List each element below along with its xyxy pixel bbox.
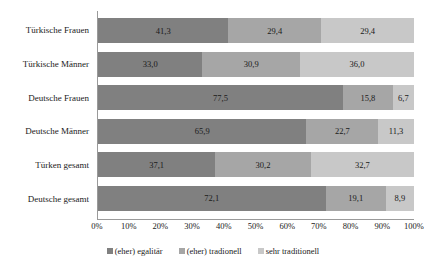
bar-row: 37,130,232,7 xyxy=(98,152,414,177)
category-axis-labels: Türkische FrauenTürkische MännerDeutsche… xyxy=(0,11,93,220)
legend-label: sehr traditionell xyxy=(266,247,320,256)
legend-item[interactable]: sehr traditionell xyxy=(258,247,320,256)
bar-value-label: 32,7 xyxy=(355,160,370,170)
x-tick-label: 60% xyxy=(279,222,295,231)
legend-label: (eher) egalitär xyxy=(115,247,163,256)
bar-segment: 30,9 xyxy=(202,52,300,77)
bar-segment: 72,1 xyxy=(98,186,326,211)
bar-value-label: 30,2 xyxy=(256,160,271,170)
bar-segment: 29,4 xyxy=(228,18,321,43)
bar-value-label: 72,1 xyxy=(204,193,219,203)
bar-value-label: 8,9 xyxy=(395,193,406,203)
bar-value-label: 36,0 xyxy=(350,59,365,69)
category-label: Deutsche Frauen xyxy=(0,86,93,111)
bar-value-label: 65,9 xyxy=(195,126,210,136)
bar-segment: 36,0 xyxy=(300,52,414,77)
bar-segment: 19,1 xyxy=(326,186,386,211)
bar-segment: 22,7 xyxy=(306,119,378,144)
bar-segment: 33,0 xyxy=(98,52,202,77)
bar-value-label: 29,4 xyxy=(267,26,282,36)
category-label: Türkische Frauen xyxy=(0,18,93,43)
bar-value-label: 6,7 xyxy=(398,93,409,103)
legend-item[interactable]: (eher) tradionell xyxy=(179,247,242,256)
bar-value-label: 22,7 xyxy=(335,126,350,136)
bar-row: 33,030,936,0 xyxy=(98,52,414,77)
category-label: Türkische Männer xyxy=(0,52,93,77)
legend-swatch-icon xyxy=(258,248,264,254)
x-tick-label: 70% xyxy=(311,222,327,231)
plot-area: 41,329,429,433,030,936,077,515,86,765,92… xyxy=(97,11,414,220)
x-tick-label: 20% xyxy=(153,222,169,231)
stacked-bar-chart: Türkische FrauenTürkische MännerDeutsche… xyxy=(0,0,426,271)
legend-label: (eher) tradionell xyxy=(187,247,242,256)
x-tick-label: 30% xyxy=(184,222,200,231)
bar-value-label: 30,9 xyxy=(244,59,259,69)
bar-value-label: 37,1 xyxy=(149,160,164,170)
bar-rows: 41,329,429,433,030,936,077,515,86,765,92… xyxy=(98,11,414,219)
bar-segment: 30,2 xyxy=(215,152,310,177)
bar-segment: 32,7 xyxy=(311,152,414,177)
bar-value-label: 41,3 xyxy=(156,26,171,36)
x-tick-label: 40% xyxy=(216,222,232,231)
x-tick-label: 0% xyxy=(91,222,102,231)
bar-row: 72,119,18,9 xyxy=(98,186,414,211)
bar-segment: 77,5 xyxy=(98,85,343,110)
bar-segment: 37,1 xyxy=(98,152,215,177)
bar-segment: 6,7 xyxy=(393,85,414,110)
x-tick-label: 10% xyxy=(121,222,137,231)
x-tick-label: 100% xyxy=(404,222,424,231)
bar-segment: 11,3 xyxy=(378,119,414,144)
x-tick-label: 80% xyxy=(343,222,359,231)
bar-value-label: 19,1 xyxy=(348,193,363,203)
bar-value-label: 77,5 xyxy=(213,93,228,103)
bar-segment: 65,9 xyxy=(98,119,306,144)
category-label: Deutsche Männer xyxy=(0,119,93,144)
bar-row: 65,922,711,3 xyxy=(98,119,414,144)
bar-segment: 8,9 xyxy=(386,186,414,211)
bar-value-label: 11,3 xyxy=(389,126,404,136)
x-tick-label: 90% xyxy=(375,222,391,231)
chart-legend: (eher) egalitär(eher) tradionellsehr tra… xyxy=(0,247,426,256)
legend-swatch-icon xyxy=(179,248,185,254)
bar-value-label: 33,0 xyxy=(143,59,158,69)
legend-item[interactable]: (eher) egalitär xyxy=(107,247,163,256)
bar-value-label: 15,8 xyxy=(360,93,375,103)
category-label: Türken gesamt xyxy=(0,153,93,178)
bar-row: 41,329,429,4 xyxy=(98,18,414,43)
x-tick-label: 50% xyxy=(248,222,264,231)
bar-segment: 41,3 xyxy=(98,18,228,43)
category-label: Deutsche gesamt xyxy=(0,187,93,212)
bar-segment: 29,4 xyxy=(321,18,414,43)
bar-value-label: 29,4 xyxy=(360,26,375,36)
x-axis-ticks: 0%10%20%30%40%50%60%70%80%90%100% xyxy=(97,222,414,236)
legend-swatch-icon xyxy=(107,248,113,254)
bar-segment: 15,8 xyxy=(343,85,393,110)
bar-row: 77,515,86,7 xyxy=(98,85,414,110)
